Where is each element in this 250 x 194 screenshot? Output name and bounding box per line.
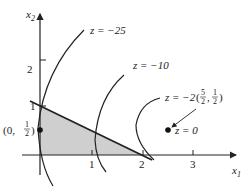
svg-text:1: 1 <box>213 88 217 97</box>
svg-text:): ) <box>31 124 35 137</box>
svg-text:1: 1 <box>25 120 29 129</box>
point-label-center: ( 5 2 , 1 2 ) <box>196 88 223 106</box>
svg-text:,: , <box>207 91 210 103</box>
svg-text:(: ( <box>196 91 200 104</box>
x1-tick-label-1: 1 <box>89 158 95 170</box>
x1-axis-label: x1 <box>231 164 241 179</box>
contour-label-z-minus-10: z = −10 <box>132 59 169 71</box>
x2-tick-label-2: 2 <box>27 63 33 75</box>
svg-text:2: 2 <box>25 129 29 138</box>
point-label-0-half: (0, 1 2 ) <box>3 120 35 138</box>
x2-axis-label: x2 <box>25 8 35 23</box>
optimization-diagram: x2 x1 1 2 3 1 2 z = −25 z = −10 z = −2 z… <box>0 0 250 194</box>
svg-text:2: 2 <box>201 97 205 106</box>
contour-z-minus-2 <box>136 98 160 160</box>
point-center <box>165 127 171 133</box>
svg-text:(0,: (0, <box>3 124 15 137</box>
svg-text:2: 2 <box>213 97 217 106</box>
svg-text:5: 5 <box>201 88 205 97</box>
contour-z-minus-10 <box>95 75 124 172</box>
contour-label-z-0: z = 0 <box>174 124 198 136</box>
x1-tick-label-2: 2 <box>139 158 145 170</box>
svg-text:): ) <box>219 91 223 104</box>
x2-tick-label-1: 1 <box>30 100 36 112</box>
point-0-half <box>37 127 43 133</box>
x1-tick-label-3: 3 <box>190 158 196 170</box>
contour-label-z-minus-2: z = −2 <box>164 91 196 103</box>
contour-label-z-minus-25: z = −25 <box>89 24 126 36</box>
